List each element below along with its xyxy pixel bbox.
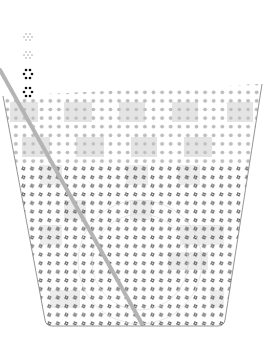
bubble-faint-1 bbox=[23, 33, 33, 41]
bubble-faint-2 bbox=[23, 51, 33, 59]
bubble-dark-1 bbox=[23, 69, 34, 80]
cup-illustration bbox=[0, 0, 271, 351]
bubbles bbox=[23, 33, 34, 97]
